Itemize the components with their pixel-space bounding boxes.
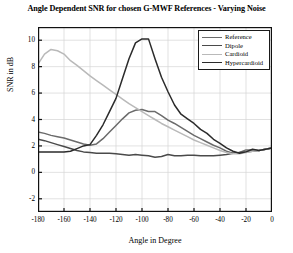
y-tick-label: -2	[13, 195, 35, 203]
y-tick-label: 4	[13, 116, 35, 124]
legend-item-label: Cardioid	[225, 50, 248, 58]
legend-item-label: Hypercardioid	[225, 59, 263, 67]
legend-item-reference: Reference	[202, 33, 266, 42]
y-tick-label: 8	[13, 63, 35, 71]
chart-figure: Angle Dependent SNR for chosen G-MWF Ref…	[0, 0, 293, 253]
legend-item-hypercardioid: Hypercardioid	[202, 59, 266, 68]
legend-swatch-icon	[202, 37, 222, 38]
y-tick-label: 6	[13, 89, 35, 97]
chart-legend: ReferenceDipoleCardioidHypercardioid	[198, 30, 270, 70]
legend-item-cardioid: Cardioid	[202, 50, 266, 59]
chart-title: Angle Dependent SNR for chosen G-MWF Ref…	[0, 4, 293, 13]
legend-item-label: Reference	[225, 33, 252, 41]
legend-item-dipole: Dipole	[202, 42, 266, 51]
y-tick-label: 0	[13, 168, 35, 176]
legend-swatch-icon	[202, 45, 222, 46]
x-axis-label: Angle in Degree	[38, 236, 272, 245]
x-tick-label: 0	[257, 216, 287, 224]
y-tick-label: 2	[13, 142, 35, 150]
legend-item-label: Dipole	[225, 42, 243, 50]
legend-swatch-icon	[202, 62, 222, 63]
legend-swatch-icon	[202, 54, 222, 55]
y-axis-label: SNR in dB	[6, 35, 15, 115]
y-tick-label: 10	[13, 36, 35, 44]
